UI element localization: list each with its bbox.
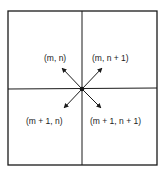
label-top-right: (m, n + 1) bbox=[92, 53, 129, 63]
label-top-left: (m, n) bbox=[44, 53, 66, 63]
grid-diagram: (m, n) (m, n + 1) (m + 1, n) (m + 1, n +… bbox=[0, 0, 166, 175]
arrow-top-right bbox=[82, 68, 102, 89]
arrow-bottom-left bbox=[64, 89, 82, 108]
arrow-bottom-right bbox=[82, 89, 101, 108]
arrow-top-left bbox=[62, 68, 82, 89]
label-bottom-left: (m + 1, n) bbox=[26, 116, 63, 126]
label-bottom-right: (m + 1, n + 1) bbox=[90, 116, 141, 126]
